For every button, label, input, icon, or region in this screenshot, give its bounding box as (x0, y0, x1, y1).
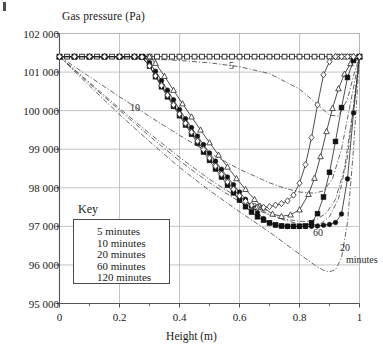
y-tick-label: 98 000 (3, 182, 59, 194)
curve-label: minutes (346, 254, 378, 265)
y-tick-label: 102 000 (3, 28, 59, 40)
x-tick-label: 0.8 (293, 311, 307, 323)
curve-label: 120 (247, 201, 262, 212)
y-tick-label: 95 000 (3, 298, 59, 310)
x-axis-title: Height (m) (0, 330, 383, 342)
y-tick-label: 100 000 (3, 105, 59, 117)
x-tick-label: 0 (57, 311, 63, 323)
legend-entry-label: 5 minutes (97, 225, 140, 237)
curve-label: 60 (313, 227, 323, 238)
x-tick-label: 0.6 (233, 311, 247, 323)
curve-label: 5 (229, 60, 234, 71)
curve-label: 10 (130, 102, 140, 113)
y-tick-label: 101 000 (3, 66, 59, 78)
x-tick-label: 0.2 (113, 311, 127, 323)
y-axis-tick-labels: 95 00096 00097 00098 00099 000100 000101… (0, 0, 59, 351)
y-tick-label: 96 000 (3, 259, 59, 271)
legend-entry-label: 60 minutes (97, 260, 146, 272)
y-tick-label: 97 000 (3, 220, 59, 232)
x-tick-label: 0.4 (173, 311, 187, 323)
legend-entry-label: 20 minutes (97, 248, 146, 260)
legend-entry-label: 120 minutes (97, 271, 151, 283)
curve-label: 20 (340, 242, 350, 253)
legend-title: Key (78, 202, 98, 217)
y-tick-label: 99 000 (3, 143, 59, 155)
figure-canvas: Gas pressure (Pa) 95 00096 00097 00098 0… (0, 0, 383, 351)
legend-entry-label: 10 minutes (97, 237, 146, 249)
x-tick-label: 1 (357, 311, 363, 323)
